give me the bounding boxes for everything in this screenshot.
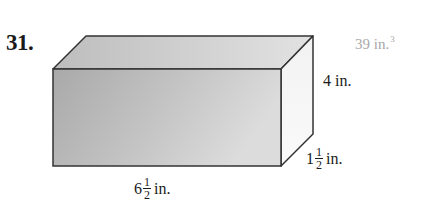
length-label: 6 1 2 in. <box>134 176 170 201</box>
length-whole: 6 <box>134 180 142 198</box>
length-unit: in. <box>154 180 170 198</box>
height-label: 4 in. <box>323 72 351 90</box>
top-face <box>53 36 313 69</box>
depth-whole: 1 <box>306 150 314 168</box>
depth-fraction: 1 2 <box>315 146 323 171</box>
length-fraction: 1 2 <box>143 176 151 201</box>
depth-label: 1 1 2 in. <box>306 146 342 171</box>
depth-unit: in. <box>326 150 342 168</box>
rectangular-prism-figure <box>0 0 434 206</box>
length-denominator: 2 <box>144 189 150 201</box>
front-face <box>53 69 281 166</box>
depth-denominator: 2 <box>316 159 322 171</box>
